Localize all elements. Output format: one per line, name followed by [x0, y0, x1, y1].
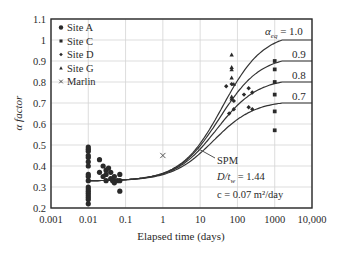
series-site-d: [224, 82, 254, 116]
x-tick-label: 1000: [264, 214, 285, 225]
y-tick-label: 0.6: [33, 119, 46, 130]
curve-label-0-9: 0.9: [292, 48, 306, 60]
spm-label: SPM: [217, 155, 239, 166]
marker-x: [59, 80, 63, 84]
legend-label: Marlin: [67, 76, 96, 87]
y-tick-label: 1.1: [33, 14, 46, 25]
marker-square: [273, 59, 277, 63]
y-tick-label: 0.8: [33, 77, 46, 88]
legend-item: Site C: [59, 36, 92, 47]
marker-circle: [112, 174, 117, 179]
marker-square: [273, 80, 277, 84]
y-tick-label: 0.7: [33, 98, 46, 109]
x-tick-label: 0.1: [119, 214, 132, 225]
alpha-eq-label: αeq = 1.0: [265, 25, 303, 40]
x-tick-label: 10: [195, 214, 206, 225]
marker-circle: [103, 178, 108, 183]
curve-label-0-7: 0.7: [292, 90, 306, 102]
legend-label: Site C: [67, 36, 93, 47]
y-axis-label: α factor: [12, 95, 24, 131]
x-tick-label: 0.01: [79, 214, 97, 225]
legend-label: Site G: [67, 63, 94, 74]
marker-square: [59, 39, 62, 42]
marker-circle: [97, 170, 102, 175]
marker-square: [273, 110, 277, 114]
y-tick-label: 0.4: [33, 161, 47, 172]
curve-label-0-8: 0.8: [292, 69, 306, 81]
spm-annotation: SPM D/tw = 1.44 c = 0.07 m²/day: [197, 148, 284, 200]
marker-triangle: [229, 67, 233, 71]
data-points: [86, 53, 277, 207]
marker-circle: [86, 184, 91, 189]
legend-item: Site G: [59, 63, 94, 74]
x-tick-label: 1: [160, 214, 165, 225]
y-tick-label: 0.5: [33, 140, 46, 151]
legend-item: Site A: [59, 22, 94, 33]
y-tick-label: 0.3: [33, 182, 46, 193]
legend-label: Site D: [67, 49, 94, 60]
marker-square: [273, 93, 277, 97]
legend-item: Marlin: [59, 76, 96, 87]
marker-diamond: [242, 92, 246, 96]
y-tick-label: 0.9: [33, 56, 46, 67]
x-tick-label: 10,000: [298, 214, 327, 225]
marker-diamond: [246, 105, 250, 109]
marker-circle: [108, 170, 113, 175]
y-tick-label: 1: [41, 35, 46, 46]
x-axis-label: Elapsed time (days): [137, 230, 225, 243]
marker-square: [273, 68, 277, 72]
legend: Site ASite CSite DSite GMarlin: [59, 22, 97, 87]
marker-circle: [86, 145, 91, 150]
marker-diamond: [59, 53, 63, 57]
marker-triangle: [229, 53, 233, 57]
marker-diamond: [224, 84, 228, 88]
legend-label: Site A: [67, 22, 93, 33]
y-axis-ticks: 0.20.30.40.50.60.70.80.911.1: [33, 14, 47, 214]
marker-circle: [97, 157, 102, 162]
marker-triangle: [59, 66, 63, 69]
marker-circle: [117, 172, 122, 177]
marker-circle: [101, 163, 106, 168]
x-tick-label: 0.001: [39, 214, 63, 225]
y-tick-label: 0.2: [33, 203, 46, 214]
marker-square: [273, 128, 277, 132]
marker-circle: [117, 189, 122, 194]
marker-diamond: [246, 86, 250, 90]
marker-diamond: [250, 107, 254, 111]
alpha-factor-chart: 0.20.30.40.50.60.70.80.911.1 0.0010.010.…: [0, 0, 342, 256]
ratio-label: D/tw = 1.44: [216, 171, 265, 185]
legend-item: Site D: [59, 49, 94, 60]
curve-labels: αeq = 1.0 0.9 0.8 0.7: [265, 25, 306, 102]
x-tick-label: 100: [230, 214, 246, 225]
marker-circle: [86, 172, 91, 177]
x-axis-ticks: 0.0010.010.1110100100010,000: [39, 214, 326, 225]
marker-circle: [59, 25, 63, 29]
marker-circle: [117, 178, 122, 183]
consolidation-label: c = 0.07 m²/day: [217, 189, 284, 200]
series-site-a: [86, 145, 123, 207]
marker-triangle: [229, 76, 233, 80]
marker-circle: [103, 172, 108, 177]
